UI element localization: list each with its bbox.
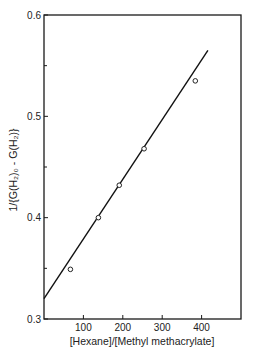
y-tick-label: 0.5 [27,111,41,122]
y-tick-label: 0.4 [27,212,41,223]
x-tick-label: 200 [114,322,131,333]
y-tick-label: 0.3 [27,314,41,325]
data-series [68,79,197,272]
x-axis-title: [Hexane]/[Methyl methacrylate] [70,335,215,347]
x-axis-ticks: 100200300400 [75,315,210,333]
y-axis-title: 1/{G(H₂)₀ - G(H₂)} [7,128,19,212]
y-tick-label: 0.6 [27,10,41,21]
fit-line [44,50,208,298]
plot-frame [44,15,241,319]
x-tick-label: 300 [154,322,171,333]
chart: 100200300400 0.30.40.50.6 [Hexane]/[Meth… [0,0,254,354]
data-point [68,267,73,272]
data-point [193,79,198,84]
data-point [96,215,101,220]
x-tick-label: 400 [193,322,210,333]
x-tick-label: 100 [75,322,92,333]
y-axis-ticks: 0.30.40.50.6 [27,10,48,325]
data-point [142,146,147,151]
data-point [117,183,122,188]
